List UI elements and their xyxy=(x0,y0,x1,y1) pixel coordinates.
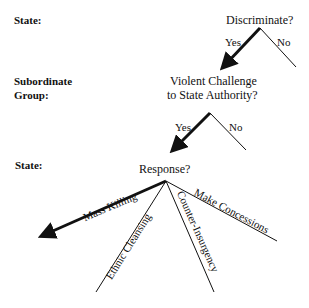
node-response: Response? xyxy=(139,162,190,176)
tree-edges xyxy=(0,0,309,308)
node-discriminate: Discriminate? xyxy=(226,13,293,27)
actor-state-label: State: xyxy=(14,13,42,27)
game-tree-diagram: State: Subordinate Group: State: Discrim… xyxy=(0,0,309,308)
actor-subordinate-label-line2: Group: xyxy=(14,88,49,102)
label-discriminate-yes: Yes xyxy=(225,36,241,48)
label-challenge-yes: Yes xyxy=(175,121,191,133)
label-challenge-no: No xyxy=(229,121,242,133)
node-challenge-line1: Violent Challenge xyxy=(170,74,257,88)
actor-subordinate-label-line1: Subordinate xyxy=(14,74,72,88)
actor-state-label-2: State: xyxy=(15,158,43,172)
node-challenge-line2: to State Authority? xyxy=(167,88,258,102)
label-discriminate-no: No xyxy=(277,36,290,48)
